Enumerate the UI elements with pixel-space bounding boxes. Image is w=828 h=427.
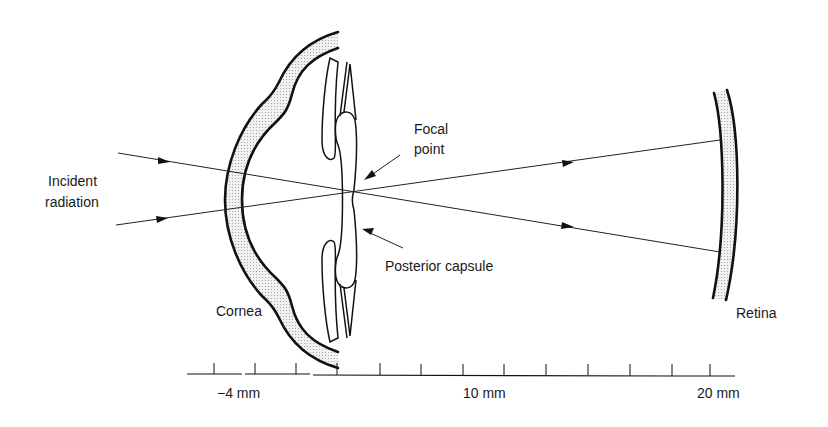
lens — [335, 62, 356, 338]
iris — [322, 58, 338, 342]
scale-bar: −4 mm 10 mm 20 mm — [187, 363, 740, 401]
label-focal: Focal — [414, 121, 448, 137]
label-cornea: Cornea — [216, 303, 262, 319]
eye-optics-diagram: Incident radiation Focal point Posterior… — [0, 0, 828, 427]
posterior-capsule-leader — [362, 228, 403, 248]
label-point: point — [414, 141, 444, 157]
label-radiation: radiation — [45, 194, 99, 210]
retina-shape — [713, 90, 737, 300]
scale-label-10: 10 mm — [463, 385, 506, 401]
arrow-icon — [156, 216, 168, 223]
ray-upper-incident — [118, 153, 720, 252]
scale-label-neg4: −4 mm — [217, 385, 260, 401]
focal-point-leader — [364, 155, 400, 180]
label-incident: Incident — [48, 173, 97, 189]
scale-label-20: 20 mm — [697, 385, 740, 401]
arrow-icon — [158, 157, 170, 164]
label-retina: Retina — [736, 305, 777, 321]
label-posterior-capsule: Posterior capsule — [385, 258, 493, 274]
